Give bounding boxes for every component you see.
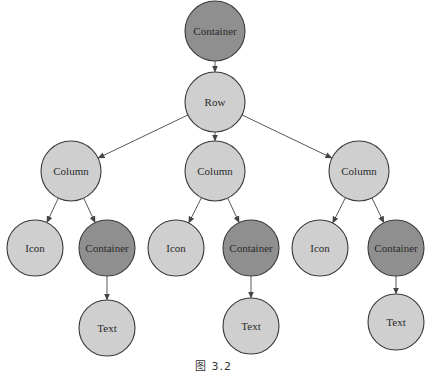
node-label: Text — [386, 316, 405, 328]
node-icon-3: Icon — [292, 220, 348, 276]
node-label: Column — [197, 165, 233, 177]
node-label: Container — [85, 242, 129, 254]
node-column-2: Column — [185, 141, 245, 201]
node-label: Row — [205, 96, 226, 108]
edge-column-1-to-icon-1 — [47, 198, 58, 222]
node-container-2: Container — [223, 220, 279, 276]
node-container-3: Container — [368, 220, 424, 276]
node-label: Icon — [310, 242, 330, 254]
node-container-root: Container — [185, 1, 245, 61]
node-column-3: Column — [329, 141, 389, 201]
edge-row-to-column-1 — [99, 115, 188, 158]
node-label: Container — [374, 242, 418, 254]
edge-column-1-to-container-1 — [84, 198, 95, 222]
node-text-3: Text — [368, 294, 424, 350]
node-icon-1: Icon — [7, 220, 63, 276]
edge-column-2-to-icon-2 — [189, 198, 202, 223]
nodes-layer: ContainerRowColumnColumnColumnIconContai… — [7, 1, 424, 356]
node-label: Column — [341, 165, 377, 177]
edge-row-to-column-3 — [242, 115, 331, 158]
edge-column-3-to-icon-3 — [333, 198, 346, 223]
node-label: Text — [241, 320, 260, 332]
node-label: Column — [53, 165, 89, 177]
node-label: Text — [97, 322, 116, 334]
node-label: Icon — [25, 242, 45, 254]
edge-column-2-to-container-2 — [228, 198, 239, 222]
node-label: Container — [193, 25, 237, 37]
node-icon-2: Icon — [148, 220, 204, 276]
widget-tree-diagram: ContainerRowColumnColumnColumnIconContai… — [0, 0, 427, 376]
node-label: Icon — [166, 242, 186, 254]
node-label: Container — [229, 242, 273, 254]
node-container-1: Container — [79, 220, 135, 276]
node-text-2: Text — [223, 298, 279, 354]
node-column-1: Column — [41, 141, 101, 201]
node-text-1: Text — [79, 300, 135, 356]
node-row: Row — [185, 72, 245, 132]
edge-column-3-to-container-3 — [372, 198, 384, 222]
figure-caption: 图 3.2 — [0, 357, 427, 373]
